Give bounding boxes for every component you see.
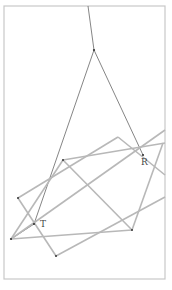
apex-point — [93, 49, 95, 51]
label-t: T — [40, 220, 46, 229]
edge-a1 — [11, 230, 132, 239]
long-line-2 — [63, 143, 165, 160]
left-vertex-point — [10, 238, 12, 240]
thick-lines — [11, 130, 165, 256]
edge-b1 — [18, 137, 118, 198]
thin-lines — [11, 6, 143, 239]
apex-right-line — [94, 50, 143, 155]
label-r: R — [141, 158, 148, 167]
geometry-diagram — [0, 0, 172, 290]
point-p4 — [17, 197, 19, 199]
point-r — [142, 154, 144, 156]
point-p1 — [62, 159, 64, 161]
point-p5 — [55, 255, 57, 257]
apex-left-line — [34, 50, 94, 224]
edge-b3 — [18, 198, 56, 256]
edge-b4 — [56, 197, 165, 256]
point-t — [33, 223, 35, 225]
point-p2 — [131, 229, 133, 231]
top-segment — [88, 6, 94, 50]
